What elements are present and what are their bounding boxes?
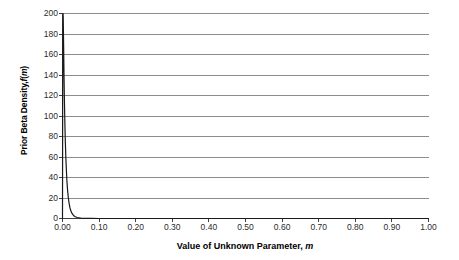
beta-prior-density-chart: Prior Beta Density,f(m) 0204060801001201… bbox=[0, 0, 459, 260]
plot-area bbox=[0, 0, 459, 260]
gridlines bbox=[63, 14, 429, 219]
